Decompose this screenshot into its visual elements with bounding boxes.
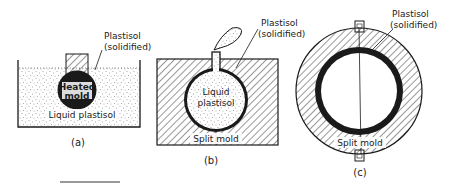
hollow-interior [321, 53, 397, 129]
label-plastisol-b: plastisol [197, 98, 234, 108]
label-plastisol: Plastisol [104, 31, 141, 41]
panel-b: Liquid plastisol Split mold Plastisol (s… [157, 18, 305, 166]
overflow-plastisol [214, 28, 242, 50]
caption-b: (b) [204, 155, 218, 166]
label-solidified: (solidified) [390, 20, 437, 30]
label-split-mold: Split mold [193, 134, 238, 144]
label-split-mold: Split mold [337, 138, 382, 148]
label-mold: mold [64, 91, 89, 101]
label-plastisol: Plastisol [261, 18, 298, 28]
label-solidified: (solidified) [258, 29, 305, 39]
label-plastisol: Plastisol [392, 9, 429, 19]
label-liquid-plastisol: Liquid plastisol [48, 110, 115, 120]
panel-a: Heated mold Liquid plastisol Plastisol (… [18, 31, 151, 182]
label-liquid: Liquid [202, 87, 229, 97]
caption-a: (a) [71, 137, 85, 148]
plastisol-molding-diagram: Heated mold Liquid plastisol Plastisol (… [0, 0, 458, 188]
label-solidified: (solidified) [104, 42, 151, 52]
caption-c: (c) [353, 167, 366, 178]
leader-line [95, 50, 102, 70]
panel-c: Split mold Plastisol (solidified) (c) [296, 9, 437, 178]
